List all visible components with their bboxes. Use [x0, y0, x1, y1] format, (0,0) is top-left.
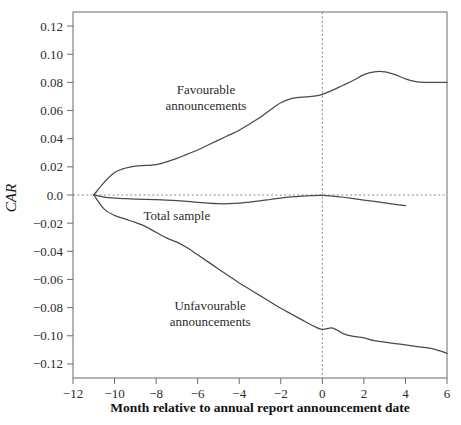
total-sample-label: Total sample — [144, 208, 211, 223]
y-tick-label: 0.02 — [40, 159, 63, 174]
x-tick-label: −2 — [274, 386, 288, 401]
y-tick-label: −0.12 — [33, 356, 63, 371]
y-tick-label: 0.04 — [40, 131, 63, 146]
y-tick-label: −0.06 — [33, 272, 64, 287]
y-axis-title: CAR — [3, 184, 19, 212]
favourable-label-line2: announcements — [166, 98, 247, 113]
y-tick-label: −0.10 — [33, 328, 63, 343]
y-tick-label: 0.10 — [40, 47, 63, 62]
y-tick-label: 0.12 — [40, 19, 63, 34]
x-tick-label: −10 — [104, 386, 124, 401]
y-tick-label: −0.08 — [33, 300, 63, 315]
y-tick-label: −0.02 — [33, 216, 63, 231]
chart-figure: 0.120.100.080.060.040.020.0−0.02−0.04−0.… — [0, 0, 461, 425]
y-tick-label: 0.0 — [47, 188, 63, 203]
unfavourable-label-line2: announcements — [170, 314, 251, 329]
x-tick-label: 6 — [444, 386, 451, 401]
x-tick-label: −6 — [191, 386, 205, 401]
x-tick-label: −8 — [149, 386, 163, 401]
x-tick-label: 4 — [402, 386, 409, 401]
x-tick-label: 0 — [319, 386, 326, 401]
x-axis-title: Month relative to annual report announce… — [110, 400, 410, 415]
x-tick-label: −4 — [232, 386, 246, 401]
car-event-study-chart: 0.120.100.080.060.040.020.0−0.02−0.04−0.… — [0, 0, 461, 425]
x-tick-label: −12 — [63, 386, 83, 401]
unfavourable-label: Unfavourable — [174, 298, 246, 313]
y-tick-label: 0.08 — [40, 75, 63, 90]
x-tick-label: 2 — [361, 386, 368, 401]
y-tick-label: −0.04 — [33, 244, 64, 259]
y-tick-label: 0.06 — [40, 103, 63, 118]
favourable-label: Favourable — [177, 82, 236, 97]
chart-background — [0, 0, 461, 425]
